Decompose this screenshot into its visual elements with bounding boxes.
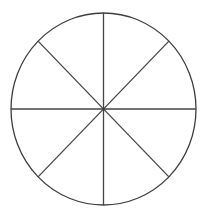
figure-root: Circle divided into eight equal sectors … bbox=[0, 0, 206, 218]
center-point bbox=[102, 108, 104, 110]
fraction-circle-diagram: Circle divided into eight equal sectors … bbox=[0, 0, 206, 218]
